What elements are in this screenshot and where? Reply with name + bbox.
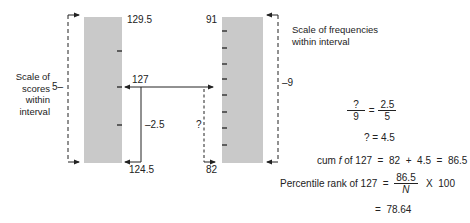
unknown-frequency-label: ? [196,119,202,130]
cumulative-frequency-equation: cum f of 127 = 82 + 4.5 = 86.5 [317,155,467,166]
frequency-width-label: –9 [282,77,293,88]
score-top-value: 129.5 [127,14,152,25]
frequency-bottom-value: 82 [206,164,217,175]
frequency-interval-bar [222,17,263,163]
percentile-rank-result: = 78.64 [375,204,411,215]
score-width-label: 5– [52,81,63,92]
solve-equation: ? = 4.5 [364,132,395,143]
score-marker-127: 127 [132,74,149,85]
unknown-frequency-bracket [204,89,215,162]
frequency-width-bracket [267,15,278,162]
score-interval-bar [84,17,122,163]
percentile-rank-equation: Percentile rank of 127 = 86.5 N X 100 [280,172,455,195]
score-width-bracket [68,15,79,162]
proportion-equation: ? 9 = 2.5 5 [347,99,396,122]
frequency-top-value: 91 [206,14,217,25]
frequency-scale-caption: Scale of frequencies within interval [292,24,378,47]
score-scale-caption: Scale of scores within interval [12,71,50,117]
score-offset-label: –2.5 [145,119,164,130]
score-bottom-value: 124.5 [129,164,154,175]
